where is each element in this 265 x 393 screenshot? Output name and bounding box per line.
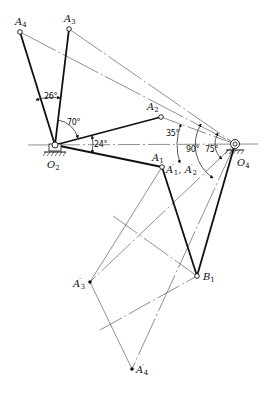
point-a3-prime (88, 280, 92, 284)
label-a2: A2 (147, 102, 159, 114)
joint-a1 (160, 165, 165, 170)
angle-label-35: 35° (166, 130, 179, 138)
line-a1-a3p (90, 167, 162, 282)
link-o2-a3 (55, 29, 69, 145)
perpendicular-bisector-1 (113, 216, 197, 276)
link-o2-a4 (20, 32, 55, 145)
ground-centerline (28, 144, 258, 145)
angle-label-70: 70° (67, 119, 80, 127)
linkage-diagram: A4 A3 A2 A1 A′1, A′2 O2 O4 B1 A′3 A′4 26… (0, 0, 265, 393)
label-a3-prime: A′3 (73, 278, 85, 291)
link-o2-a1 (55, 145, 162, 167)
label-a4-prime: A′4 (136, 364, 148, 377)
angle-label-90: 90° (186, 146, 199, 154)
rocker-o4-b1 (197, 144, 235, 276)
label-a1p-a2p: A′1, A′2 (166, 164, 197, 177)
label-b1: B1 (203, 272, 215, 284)
joint-a4 (18, 30, 23, 35)
construction-line-a4-o4 (20, 32, 235, 144)
label-a1: A1 (152, 153, 164, 165)
angle-label-75: 75° (205, 146, 218, 154)
label-o2: O2 (47, 160, 60, 172)
angle-label-26: 26° (44, 93, 57, 101)
perpendicular-bisector-2 (100, 276, 197, 330)
joint-b1 (195, 274, 200, 279)
coupler-a1-b1 (162, 167, 197, 276)
label-a4: A4 (15, 17, 27, 29)
label-a3: A3 (64, 14, 76, 26)
ground-pivot-o2 (43, 142, 66, 156)
label-o4: O4 (237, 158, 250, 170)
point-a4-prime (130, 367, 134, 371)
angle-label-24: 24° (94, 141, 107, 149)
line-a3p-a4p (90, 282, 132, 369)
construction-line-a3-o4 (69, 29, 235, 144)
construction-line-o4-a4p (132, 144, 235, 369)
joint-a3 (67, 27, 72, 32)
diagram-canvas (0, 0, 265, 393)
joint-a2 (159, 115, 164, 120)
